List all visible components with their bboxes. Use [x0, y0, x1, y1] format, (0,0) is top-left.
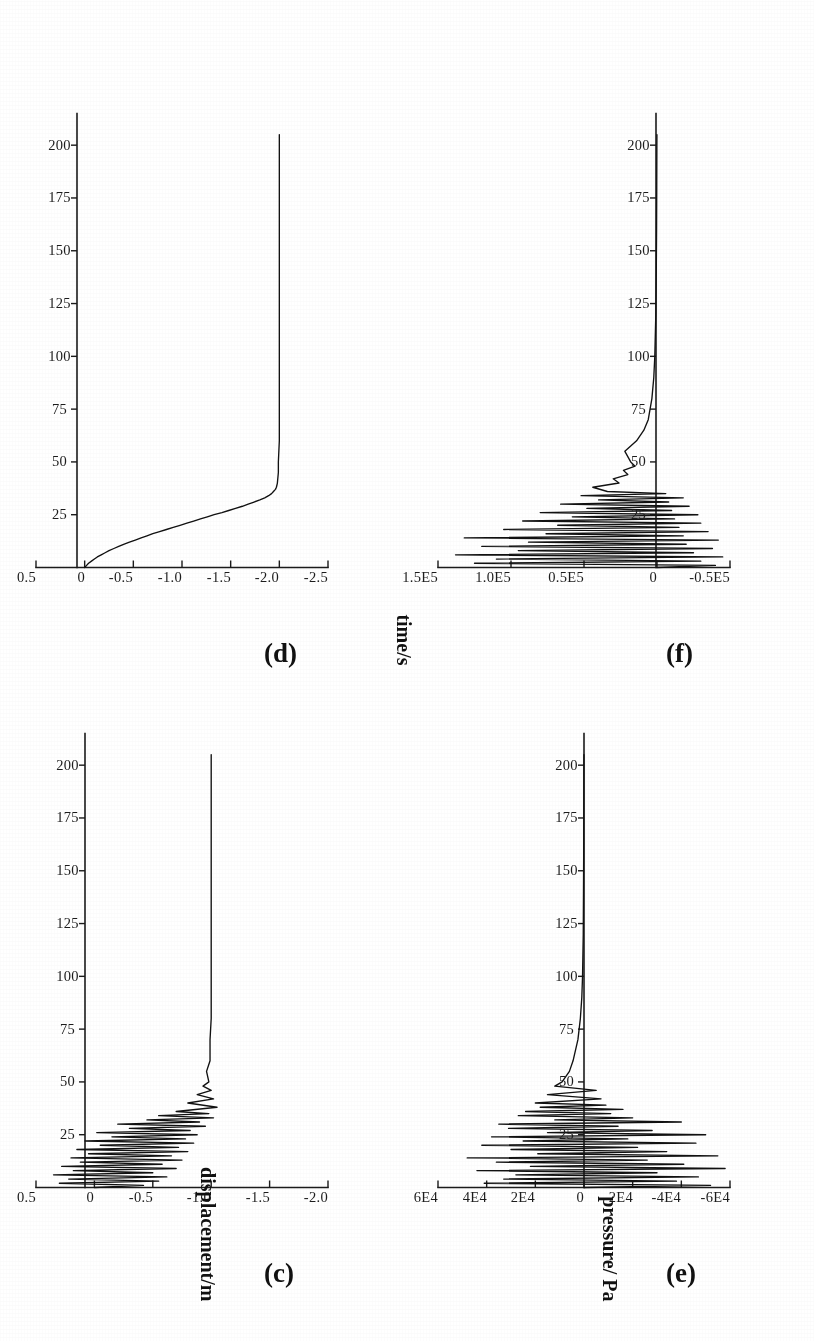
panel-d-plot	[28, 105, 358, 625]
panel-d-xtick-label: 200	[48, 136, 71, 153]
panel-e-ytick-label: -6E4	[701, 1189, 730, 1206]
panel-f-ytick-label: 1.5E5	[402, 569, 438, 586]
panel-e-ytick-label: 0	[576, 1189, 584, 1206]
panel-d-ytick-label: -2.0	[255, 569, 279, 586]
panel-c-x-ticks	[79, 765, 85, 1135]
panel-c-xtick-label: 200	[56, 756, 79, 773]
panel-e-ytick-label: 4E4	[462, 1189, 486, 1206]
panel-e-xtick-label: 50	[559, 1073, 574, 1090]
panel-f: (f) 255075100125150175200 1.5E51.0E50.5E…	[430, 105, 760, 625]
panel-c-xtick-label: 175	[56, 809, 79, 826]
panel-e-svg	[430, 725, 760, 1245]
panel-c-ytick-label: 0	[87, 1189, 95, 1206]
panel-d-xtick-label: 125	[48, 295, 71, 312]
panel-c-xtick-label: 150	[56, 862, 79, 879]
axis-title-displacement: displacement/m	[196, 1167, 219, 1301]
panel-e-ytick-label: 2E4	[511, 1189, 535, 1206]
panel-d-ytick-label: 0	[77, 569, 85, 586]
panel-f-ytick-label: 0.5E5	[548, 569, 584, 586]
panel-c-xtick-label: 75	[60, 1020, 75, 1037]
panel-c-ytick-label: -1.5	[245, 1189, 269, 1206]
panel-c-xtick-label: 50	[60, 1073, 75, 1090]
panel-d-xtick-label: 50	[52, 453, 67, 470]
panel-d-xtick-label: 25	[52, 506, 67, 523]
panel-e-ytick-label: 6E4	[414, 1189, 438, 1206]
panel-f-svg	[430, 105, 760, 625]
panel-c-svg	[28, 725, 358, 1245]
panel-f-xtick-label: 100	[627, 347, 650, 364]
panel-e-ytick-label: -4E4	[652, 1189, 681, 1206]
panel-c-xtick-label: 125	[56, 915, 79, 932]
panel-c-xtick-label: 100	[56, 967, 79, 984]
panel-e-series-pressure	[467, 754, 725, 1187]
panel-d-ytick-label: 0.5	[17, 569, 36, 586]
panel-d-xtick-label: 175	[48, 189, 71, 206]
axis-title-time: time/s	[392, 614, 415, 665]
panel-c-label: (c)	[264, 1257, 294, 1288]
panel-f-xtick-label: 150	[627, 242, 650, 259]
panel-d-series-displacement	[85, 134, 280, 567]
panel-f-plot	[430, 105, 760, 625]
panel-d-x-ticks	[71, 145, 77, 515]
panel-f-xtick-label: 125	[627, 295, 650, 312]
panel-d-xtick-label: 75	[52, 400, 67, 417]
panel-d-ytick-label: -0.5	[109, 569, 133, 586]
panel-c: (c) 255075100125150175200 0.50-0.5-1.0-1…	[28, 725, 358, 1245]
panel-d-ytick-label: -1.0	[158, 569, 182, 586]
panel-e-xtick-label: 200	[555, 756, 578, 773]
panel-e-plot	[430, 725, 760, 1245]
panel-d-xtick-label: 100	[48, 347, 71, 364]
panel-e-xtick-label: 150	[555, 862, 578, 879]
panel-c-xtick-label: 25	[60, 1126, 75, 1143]
panel-d-ytick-label: -1.5	[207, 569, 231, 586]
panel-d: (d) 255075100125150175200 0.50-0.5-1.0-1…	[28, 105, 358, 625]
panel-f-xtick-label: 175	[627, 189, 650, 206]
panel-c-plot	[28, 725, 358, 1245]
panel-c-ytick-label: -0.5	[129, 1189, 153, 1206]
panel-c-ytick-label: 0.5	[17, 1189, 36, 1206]
panel-d-ytick-label: -2.5	[304, 569, 328, 586]
panel-f-ytick-label: 0	[649, 569, 657, 586]
panel-e-label: (e)	[666, 1257, 696, 1288]
axis-title-pressure: pressure/ Pa	[598, 1196, 621, 1301]
panel-e-xtick-label: 125	[555, 915, 578, 932]
figure-panel-grid: (c) 255075100125150175200 0.50-0.5-1.0-1…	[0, 0, 814, 1341]
panel-f-xtick-label: 25	[631, 506, 646, 523]
panel-f-xtick-label: 50	[631, 453, 646, 470]
panel-e-xtick-label: 100	[555, 967, 578, 984]
panel-f-label: (f)	[666, 637, 693, 668]
panel-c-ytick-label: -2.0	[304, 1189, 328, 1206]
panel-f-xtick-label: 200	[627, 136, 650, 153]
panel-d-y-ticks	[36, 560, 328, 567]
scanned-figure-page: (c) 255075100125150175200 0.50-0.5-1.0-1…	[0, 0, 814, 1341]
panel-f-ytick-label: -0.5E5	[689, 569, 730, 586]
panel-e-xtick-label: 175	[555, 809, 578, 826]
panel-f-xtick-label: 75	[631, 400, 646, 417]
panel-e-xtick-label: 25	[559, 1126, 574, 1143]
panel-e: (e) 255075100125150175200 6E44E42E40-2E4…	[430, 725, 760, 1245]
panel-d-svg	[28, 105, 358, 625]
panel-d-xtick-label: 150	[48, 242, 71, 259]
panel-f-series-pressure	[456, 134, 723, 567]
panel-d-label: (d)	[264, 637, 297, 668]
panel-e-xtick-label: 75	[559, 1020, 574, 1037]
panel-f-ytick-label: 1.0E5	[475, 569, 511, 586]
